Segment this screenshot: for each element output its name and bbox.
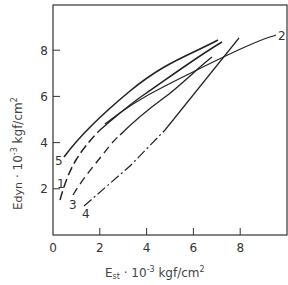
y-tick-label-8: 8 (40, 44, 48, 58)
plot-frame (53, 5, 287, 235)
curve-label-5: 5 (55, 154, 63, 168)
curve-label-1: 1 (57, 177, 65, 191)
curve-4-solid (165, 38, 239, 130)
y-tick-label-2: 2 (40, 182, 48, 196)
chart-svg: 0 2 4 6 8 2 4 6 8 Est · 10-3 kgf/cm2 Edy… (0, 0, 288, 285)
x-ticks (100, 228, 240, 235)
y-ticks (53, 50, 60, 189)
curve-2 (105, 35, 276, 124)
curve-1-dashed (60, 130, 100, 200)
x-tick-label-8: 8 (236, 241, 244, 255)
x-tick-label-4: 4 (143, 241, 151, 255)
x-tick-label-2: 2 (96, 241, 104, 255)
curve-label-3: 3 (69, 198, 77, 212)
curve-1-solid (100, 42, 222, 130)
y-axis-label: Edyn · 10-3 kgf/cm2 (10, 97, 25, 210)
curve-3-solid (120, 57, 212, 135)
x-tick-label-0: 0 (49, 241, 57, 255)
curve-label-2: 2 (278, 29, 286, 43)
curve-label-4: 4 (82, 207, 90, 221)
y-tick-label-6: 6 (40, 90, 48, 104)
x-axis-label: Est · 10-3 kgf/cm2 (105, 265, 205, 281)
y-tick-label-4: 4 (40, 136, 48, 150)
curve-4-dashdot (84, 130, 165, 206)
curve-3-dashed (73, 135, 120, 195)
x-tick-label-6: 6 (190, 241, 198, 255)
